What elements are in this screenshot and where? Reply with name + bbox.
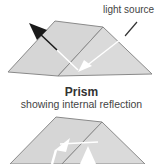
diagram-subtitle: showing internal reflection	[0, 98, 163, 110]
prism-bottom-figure	[0, 110, 163, 164]
diagram-title: Prism	[0, 85, 163, 99]
prism-top-figure	[0, 0, 163, 82]
